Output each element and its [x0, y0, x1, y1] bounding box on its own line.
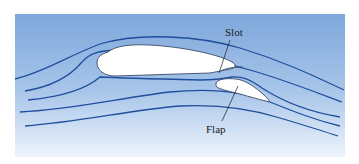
- flap-label: Flap: [206, 123, 226, 135]
- slot-label: Slot: [225, 26, 243, 38]
- airfoil-slot-flap-diagram: Slot Flap: [0, 0, 359, 164]
